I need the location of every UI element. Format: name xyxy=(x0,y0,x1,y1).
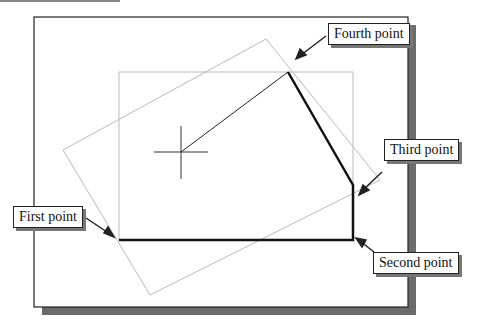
drawing-window xyxy=(34,17,408,307)
drawing-canvas xyxy=(0,0,479,324)
label-third-point: Third point xyxy=(384,139,459,161)
label-fourth-point: Fourth point xyxy=(328,23,410,45)
label-second-point: Second point xyxy=(373,252,459,274)
label-first-point: First point xyxy=(13,206,83,228)
